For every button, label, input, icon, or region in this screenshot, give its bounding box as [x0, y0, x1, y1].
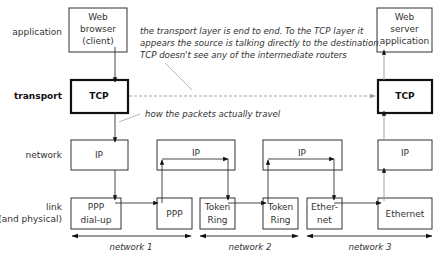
token-ring-1-line1: Token	[204, 202, 231, 212]
layer-label-link: link	[46, 202, 63, 212]
ppp-dialup-line2: dial-up	[81, 215, 112, 225]
web-server-line1: Web	[395, 12, 415, 22]
packets-note-pointer	[119, 114, 140, 122]
web-server-box: Web server application	[377, 8, 432, 52]
web-browser-box: Web browser (client)	[69, 8, 127, 52]
ip-router1-box: IP	[157, 140, 235, 170]
transport-note-pointer	[165, 63, 192, 90]
layer-label-network: network	[25, 150, 62, 160]
web-server-line3: application	[380, 36, 430, 46]
network-2-label: network 2	[228, 242, 271, 252]
tcp-right-box: TCP	[378, 80, 432, 113]
tcp-left-label: TCP	[89, 91, 109, 101]
packets-note: how the packets actually travel	[119, 109, 281, 122]
token-ring-2-line1: Token	[267, 202, 294, 212]
ppp-label: PPP	[166, 209, 183, 219]
ip-router2-box: IP	[263, 140, 342, 170]
web-server-line2: server	[390, 24, 419, 34]
ip-router1-label: IP	[192, 148, 201, 158]
ethernet-1-line1: Ether-	[311, 202, 338, 212]
ip-right-box: IP	[378, 140, 432, 170]
layer-label-physical: (and physical)	[0, 214, 62, 224]
transport-note-line3: TCP doesn't see any of the intermediate …	[140, 50, 347, 60]
tcp-ip-routing-diagram: application transport network link (and …	[0, 0, 438, 255]
packet-path	[115, 47, 381, 203]
ip-right-label: IP	[401, 148, 410, 158]
tcp-right-label: TCP	[395, 91, 415, 101]
layer-label-transport: transport	[14, 91, 63, 101]
ethernet-right-box: Ethernet	[378, 198, 432, 229]
web-browser-line2: browser	[80, 24, 116, 34]
web-browser-line3: (client)	[82, 36, 114, 46]
token-ring-2-line2: Ring	[270, 215, 290, 225]
ethernet-right-label: Ethernet	[386, 209, 425, 219]
transport-note: the transport layer is end to end. To th…	[140, 26, 381, 90]
ip-left-box: IP	[71, 140, 128, 170]
network-3-label: network 3	[348, 242, 391, 252]
network-1-label: network 1	[109, 242, 152, 252]
transport-note-line2: appears the source is talking directly t…	[140, 38, 381, 48]
ip-router2-label: IP	[298, 148, 307, 158]
ppp-dialup-line1: PPP	[88, 202, 105, 212]
ethernet-1-line2: net	[317, 215, 332, 225]
web-browser-line1: Web	[88, 12, 108, 22]
token-ring-1-line2: Ring	[207, 215, 227, 225]
layer-label-application: application	[12, 27, 62, 37]
packets-note-text: how the packets actually travel	[145, 109, 281, 119]
transport-note-line1: the transport layer is end to end. To th…	[140, 26, 364, 36]
ip-left-label: IP	[95, 150, 104, 160]
ppp-dialup-box: PPP dial-up	[71, 198, 121, 229]
tcp-left-box: TCP	[71, 80, 128, 113]
